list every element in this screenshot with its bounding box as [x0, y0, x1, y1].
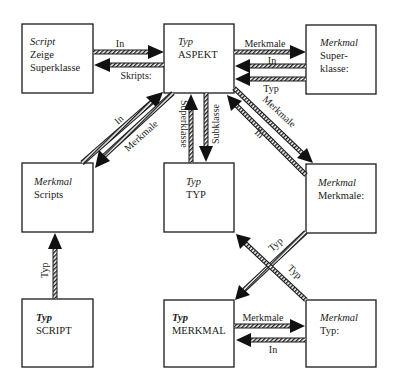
box-name-line: Typ: — [320, 325, 339, 336]
box-merkmal-merkmale: Merkmal Merkmale: — [306, 164, 376, 233]
arrowhead-right-icon — [290, 319, 305, 333]
arrowhead-up-icon — [48, 233, 62, 249]
box-kind-label: Typ — [178, 36, 193, 47]
box-kind-label: Script — [30, 36, 56, 47]
arrow-superklasse-to-aspekt-in: In — [235, 55, 306, 73]
arrow-aspekt-to-scripts: Merkmale — [95, 93, 173, 168]
arrow-label: Superklasse — [179, 100, 190, 148]
arrow-label: In — [253, 126, 267, 140]
box-kind-label: Typ — [36, 312, 52, 323]
arrowhead-right-icon — [148, 45, 164, 59]
box-name-line: Super- — [320, 50, 348, 61]
arrow-aspekt-to-zeige: Skripts: — [94, 58, 164, 81]
box-name-line: Superklasse — [30, 62, 80, 73]
box-merkmal-scripts: Merkmal Scripts — [22, 163, 93, 232]
box-merkmal-typ: Merkmal Typ: — [306, 300, 376, 367]
arrow-label: Typ — [286, 262, 305, 281]
box-typ-merkmal: Typ MERKMAL — [164, 300, 234, 367]
box-typ-aspekt: Typ ASPEKT — [164, 24, 234, 93]
arrow-aspekt-to-merkmale: Merkmale — [234, 88, 313, 163]
arrowhead-left-icon — [235, 72, 250, 86]
arrow-merkmal-to-merkmaltyp: Merkmale — [234, 312, 305, 333]
box-name-line: klasse: — [320, 63, 349, 74]
box-name-line: MERKMAL — [172, 325, 226, 336]
box-kind-label: Merkmal — [33, 176, 72, 187]
box-script-zeige-superklasse: Script Zeige Superklasse — [22, 24, 93, 93]
arrow-zeige-to-aspekt: In — [93, 38, 164, 59]
arrow-typ-to-aspekt: Superklasse — [179, 94, 198, 163]
box-name-line: Scripts — [34, 189, 63, 200]
arrow-label: Typ — [263, 83, 278, 94]
arrow-label: Merkmale — [261, 93, 299, 129]
box-kind-label: Typ — [186, 176, 201, 187]
box-typ-script: Typ SCRIPT — [22, 299, 93, 367]
arrow-superklasse-to-aspekt-typ: Typ — [235, 72, 306, 94]
arrowhead-left-icon — [94, 58, 110, 72]
arrow-merkmaltyp-to-merkmal: In — [236, 333, 306, 355]
box-typ-typ: Typ TYP — [164, 163, 234, 232]
arrow-label: Skripts: — [120, 70, 151, 81]
arrow-label: Subklasse — [210, 103, 221, 144]
box-name-line: SCRIPT — [36, 325, 72, 336]
arrow-script-to-scripts: Typ — [39, 233, 62, 299]
arrow-label: Typ — [266, 235, 285, 253]
box-name-line: ASPEKT — [178, 49, 218, 60]
box-kind-label: Merkmal — [319, 37, 358, 48]
box-kind-label: Typ — [172, 312, 188, 323]
box-kind-label: Merkmal — [319, 312, 358, 323]
arrowhead-left-icon — [235, 59, 250, 73]
arrowhead-right-icon — [290, 45, 306, 59]
box-name-line: TYP — [186, 189, 206, 200]
arrow-merkmale-to-aspekt: In — [227, 95, 306, 175]
arrow-label: In — [268, 55, 276, 66]
box-kind-label: Merkmal — [317, 177, 356, 188]
arrow-label: Merkmale — [244, 38, 286, 49]
arrow-label: In — [116, 38, 124, 49]
aspekt-type-diagram: Script Zeige Superklasse Typ ASPEKT Merk… — [0, 0, 397, 386]
box-name-line: Zeige — [30, 49, 54, 60]
arrowhead-left-icon — [236, 333, 251, 347]
arrow-aspekt-to-typ: Subklasse — [199, 93, 221, 162]
box-name-line: Merkmale: — [318, 190, 364, 201]
arrow-label: In — [269, 344, 277, 355]
box-merkmal-superklasse: Merkmal Super- klasse: — [306, 25, 376, 94]
arrowhead-down-icon — [199, 146, 213, 162]
arrow-label: Typ — [39, 263, 50, 278]
arrow-label: Merkmale — [242, 312, 284, 323]
